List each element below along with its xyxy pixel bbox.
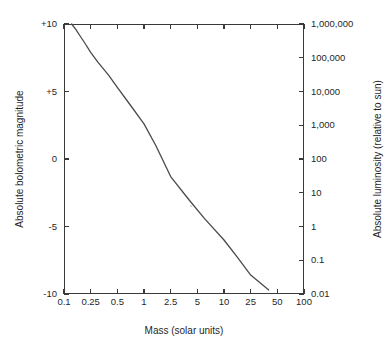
x-axis-tick bbox=[117, 289, 118, 294]
x-axis-tick-top bbox=[197, 24, 198, 29]
y-axis-right-tick bbox=[299, 158, 304, 159]
x-axis-title: Mass (solar units) bbox=[64, 325, 304, 336]
x-axis-tick bbox=[170, 289, 171, 294]
scan-speck bbox=[190, 205, 192, 207]
x-axis-tick-label: 10 bbox=[219, 297, 230, 307]
x-axis-tick-label: 25 bbox=[245, 297, 256, 307]
y-axis-right-tick bbox=[299, 91, 304, 92]
x-axis-tick-top bbox=[223, 24, 224, 29]
x-axis-tick-label: 1 bbox=[141, 297, 146, 307]
x-axis-tick-top bbox=[277, 24, 278, 29]
y-axis-left-tick bbox=[64, 91, 69, 92]
y-axis-left-tick-label: -10 bbox=[43, 289, 57, 299]
x-axis-tick-top bbox=[90, 24, 91, 29]
x-axis-tick bbox=[143, 289, 144, 294]
y-axis-left-title: Absolute bolometric magnitude bbox=[14, 24, 28, 294]
x-axis-tick-label: 0.25 bbox=[81, 297, 100, 307]
y-axis-right-tick bbox=[299, 192, 304, 193]
x-axis-tick-top bbox=[170, 24, 171, 29]
y-axis-right-tick bbox=[299, 57, 304, 58]
x-axis-tick bbox=[90, 289, 91, 294]
x-axis-tick-top bbox=[303, 24, 304, 29]
y-axis-right-tick-label: 10 bbox=[311, 188, 322, 198]
mass-luminosity-curve bbox=[72, 24, 269, 290]
y-axis-left-tick-label: 0 bbox=[52, 154, 57, 164]
y-axis-right-tick bbox=[299, 125, 304, 126]
x-axis-tick bbox=[223, 289, 224, 294]
y-axis-left-tick bbox=[64, 23, 69, 24]
x-axis-tick-top bbox=[250, 24, 251, 29]
x-axis-tick-top bbox=[143, 24, 144, 29]
x-axis-tick bbox=[197, 289, 198, 294]
y-axis-left-tick-label: -5 bbox=[49, 222, 57, 232]
y-axis-right-tick bbox=[299, 226, 304, 227]
y-axis-right-tick-label: 1 bbox=[311, 222, 316, 232]
y-axis-left-tick bbox=[64, 293, 69, 294]
y-axis-right-tick-label: 100 bbox=[311, 154, 327, 164]
y-axis-right-tick bbox=[299, 293, 304, 294]
y-axis-right-tick-label: 0.01 bbox=[311, 289, 330, 299]
x-axis-tick-label: 100 bbox=[296, 297, 312, 307]
mass-luminosity-curve-layer bbox=[64, 24, 304, 294]
x-axis-tick-label: 0.5 bbox=[111, 297, 124, 307]
y-axis-right-tick bbox=[299, 260, 304, 261]
x-axis-tick-label: 2.5 bbox=[164, 297, 177, 307]
x-axis-tick bbox=[250, 289, 251, 294]
x-axis-tick bbox=[277, 289, 278, 294]
y-axis-right-tick-label: 1,000,000 bbox=[311, 19, 353, 29]
x-axis-tick-top bbox=[117, 24, 118, 29]
y-axis-right-tick bbox=[299, 23, 304, 24]
x-axis-tick-label: 5 bbox=[195, 297, 200, 307]
x-axis-tick-label: 50 bbox=[272, 297, 283, 307]
y-axis-right-tick-label: 1,000 bbox=[311, 120, 335, 130]
y-axis-left-tick-label: +10 bbox=[41, 19, 57, 29]
y-axis-right-tick-label: 100,000 bbox=[311, 53, 345, 63]
y-axis-left-tick-label: +5 bbox=[46, 87, 57, 97]
y-axis-right-title: Absolute luminosity (relative to sun) bbox=[372, 24, 386, 294]
y-axis-right-tick-label: 10,000 bbox=[311, 87, 340, 97]
x-axis-tick-top bbox=[63, 24, 64, 29]
y-axis-left-tick bbox=[64, 158, 69, 159]
y-axis-right-tick-label: 0.1 bbox=[311, 255, 324, 265]
x-axis-tick-label: 0.1 bbox=[57, 297, 70, 307]
y-axis-left-tick bbox=[64, 226, 69, 227]
